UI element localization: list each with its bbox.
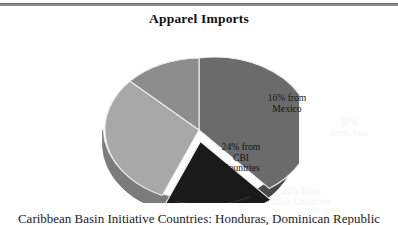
- chart-caption: Caribbean Basin Initiative Countries: Ho…: [0, 211, 398, 225]
- slice-label-asia: 37% from Asia: [311, 117, 387, 138]
- chart-page: Apparel Imports 37% from Asia 16% from: [0, 0, 398, 225]
- top-divider-rule: [0, 3, 398, 6]
- pie-chart-svg: [99, 38, 299, 203]
- pie-chart: 37% from Asia 16% from Mexico 24% from C…: [99, 38, 299, 203]
- page-title: Apparel Imports: [0, 11, 398, 27]
